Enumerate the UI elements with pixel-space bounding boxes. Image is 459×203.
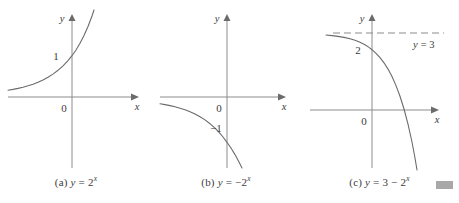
x-axis-label-a: x (134, 101, 140, 112)
curve-negative-2-to-the-x (160, 104, 242, 168)
x-axis-label-b: x (281, 101, 287, 112)
plot-c: 2 0 y x y= 3 (300, 0, 459, 176)
caption-a-prefix: (a) (55, 176, 68, 188)
caption-b: (b) y = −2x (152, 176, 300, 188)
y-axis-label-c: y (359, 13, 365, 24)
gray-color-swatch (436, 181, 453, 189)
caption-b-lhs: y (218, 176, 223, 188)
x-axis-label-c: x (434, 114, 440, 125)
caption-a-exp: x (94, 174, 98, 183)
caption-c-prefix: (c) (349, 176, 362, 188)
caption-a-eq: = (79, 176, 85, 188)
tick-label-negative-one-b: −1 (210, 122, 222, 134)
y-axis-label-a: y (59, 13, 65, 24)
panel-a: 1 0 y x (a) y = 2x (0, 0, 152, 203)
y-axis-arrow-a (69, 14, 76, 21)
y-axis-label-b: y (214, 13, 220, 24)
x-axis-arrow-a (131, 94, 139, 101)
caption-b-prefix: (b) (201, 176, 214, 188)
caption-c-lhs: y (365, 176, 370, 188)
caption-a-lhs: y (71, 176, 76, 188)
panel-b: −1 0 y x (b) y = −2x (152, 0, 300, 203)
asymptote-label-lhs: y (412, 39, 418, 50)
y-axis-arrow-b (224, 14, 231, 21)
plot-b: −1 0 y x (152, 0, 300, 176)
tick-label-two-c: 2 (355, 44, 361, 56)
caption-c-eq: = (373, 176, 379, 188)
x-axis-arrow-b (278, 94, 286, 101)
caption-c-rhs: 3 − 2 (382, 176, 406, 188)
origin-label-b: 0 (216, 102, 222, 114)
caption-b-exp: x (247, 174, 251, 183)
asymptote-label-y-equals-3: y= 3 (412, 39, 434, 50)
caption-b-rhs: −2 (235, 176, 247, 188)
asymptote-label-eq: = 3 (421, 39, 435, 50)
origin-label-a: 0 (61, 102, 67, 114)
caption-b-eq: = (226, 176, 232, 188)
tick-label-one-a: 1 (53, 50, 59, 62)
caption-c-exp: x (406, 174, 410, 183)
y-axis-arrow-c (369, 14, 376, 21)
caption-a: (a) y = 2x (0, 176, 152, 188)
panel-c: 2 0 y x y= 3 (c) y = 3 − 2x (300, 0, 459, 203)
x-axis-arrow-c (431, 107, 439, 114)
origin-label-c: 0 (361, 115, 367, 127)
exponential-functions-figure: 1 0 y x (a) y = 2x −1 0 y x (b) (0, 0, 459, 203)
plot-a: 1 0 y x (0, 0, 152, 176)
curve-2-to-the-x (8, 10, 94, 90)
